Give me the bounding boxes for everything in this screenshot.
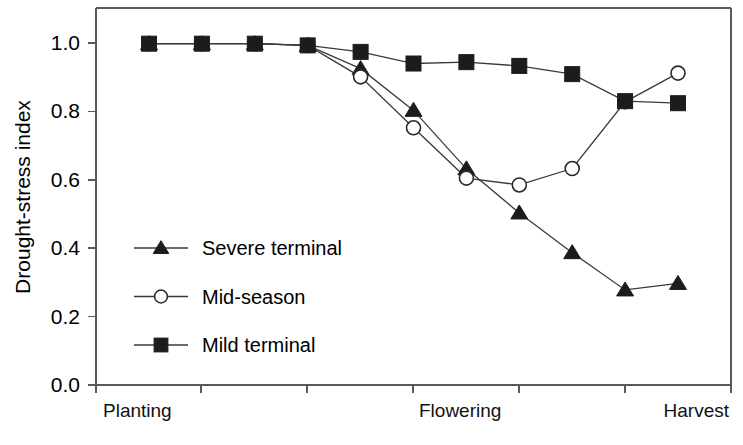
legend-label: Severe terminal <box>202 237 342 259</box>
series-line-mild-terminal <box>149 44 678 104</box>
datapoint-mid-season-4 <box>354 70 368 84</box>
datapoint-mid-season-10 <box>671 66 685 80</box>
datapoint-mild-terminal-1 <box>194 36 209 51</box>
legend-label: Mild terminal <box>202 334 315 356</box>
y-tick-label-3: 0.6 <box>51 168 80 191</box>
x-label-flowering: Flowering <box>419 400 501 421</box>
datapoint-mild-terminal-7 <box>512 58 527 73</box>
x-label-planting: Planting <box>103 400 172 421</box>
datapoint-mid-season-5 <box>407 121 421 135</box>
y-tick-label-1: 0.2 <box>51 305 80 328</box>
y-axis-ticks <box>88 43 96 385</box>
legend-item-mid-season[interactable]: Mid-season <box>134 286 305 308</box>
y-tick-label-2: 0.4 <box>51 236 81 259</box>
datapoint-mild-terminal-8 <box>565 67 580 82</box>
datapoint-severe-terminal-7 <box>511 205 528 219</box>
datapoint-mid-season-6 <box>459 171 473 185</box>
datapoint-mild-terminal-6 <box>459 55 474 70</box>
datapoint-mild-terminal-10 <box>671 96 686 111</box>
legend-item-severe-terminal[interactable]: Severe terminal <box>134 237 342 259</box>
y-axis-title: Drought-stress index <box>11 100 34 294</box>
datapoint-severe-terminal-8 <box>564 245 581 259</box>
legend-marker-square-filled <box>154 338 168 352</box>
datapoint-severe-terminal-5 <box>405 102 422 116</box>
datapoint-mild-terminal-0 <box>142 36 157 51</box>
datapoint-mid-season-8 <box>565 162 579 176</box>
x-axis-ticks <box>96 385 731 393</box>
legend-label: Mid-season <box>202 286 305 308</box>
y-tick-label-4: 0.8 <box>51 99 80 122</box>
legend-marker-circle-open <box>155 290 168 303</box>
x-axis-category-labels: Planting Flowering Harvest <box>103 400 730 421</box>
series-markers-mild-terminal <box>142 36 686 111</box>
datapoint-mild-terminal-5 <box>406 56 421 71</box>
datapoint-severe-terminal-10 <box>670 275 687 289</box>
chart-figure: 0.0 0.2 0.4 0.6 0.8 1.0 Drought-stress i… <box>0 0 743 445</box>
legend-marker-triangle-filled <box>153 241 169 254</box>
y-tick-label-0: 0.0 <box>51 373 80 396</box>
y-tick-label-5: 1.0 <box>51 31 80 54</box>
drought-stress-index-line-chart: 0.0 0.2 0.4 0.6 0.8 1.0 Drought-stress i… <box>0 0 743 445</box>
datapoint-mid-season-7 <box>512 178 526 192</box>
datapoint-mild-terminal-2 <box>247 36 262 51</box>
datapoint-mild-terminal-3 <box>300 38 315 53</box>
x-label-harvest: Harvest <box>664 400 730 421</box>
y-axis-tick-labels: 0.0 0.2 0.4 0.6 0.8 1.0 <box>51 31 81 396</box>
datapoint-mild-terminal-9 <box>618 94 633 109</box>
chart-legend: Severe terminalMid-seasonMild terminal <box>134 237 342 356</box>
legend-item-mild-terminal[interactable]: Mild terminal <box>134 334 315 356</box>
datapoint-mild-terminal-4 <box>353 44 368 59</box>
